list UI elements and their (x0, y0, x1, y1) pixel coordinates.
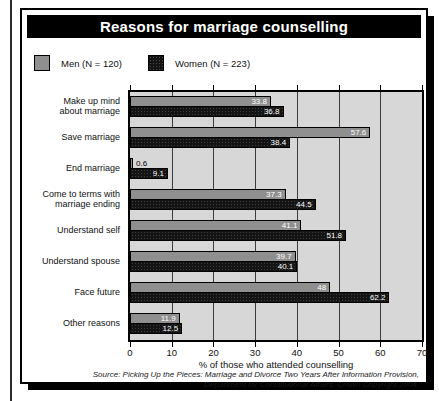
bar-women-3: 44.5 (130, 199, 316, 210)
page-left-rule (10, 0, 12, 401)
top-tick-20 (213, 85, 214, 90)
bar-women-2: 9.1 (130, 168, 168, 179)
value-label-women-2: 9.1 (153, 169, 164, 178)
x-tick-label-20: 20 (208, 347, 219, 358)
top-tick-60 (380, 85, 381, 90)
men-swatch-icon (34, 55, 50, 71)
category-label-1: Save marriage (24, 131, 120, 142)
x-tick-label-30: 30 (250, 347, 261, 358)
women-swatch-icon (148, 55, 164, 71)
x-tick-label-10: 10 (166, 347, 177, 358)
value-label-women-7: 12.5 (163, 324, 179, 333)
value-label-men-1: 57.6 (351, 128, 367, 137)
x-tick-label-0: 0 (127, 347, 132, 358)
category-label-4: Understand self (24, 224, 120, 235)
value-label-men-5: 39.7 (276, 252, 292, 261)
plot-area: 33.836.857.638.40.69.137.344.541.151.839… (128, 90, 424, 342)
value-label-women-1: 38.4 (271, 138, 287, 147)
value-label-women-0: 36.8 (264, 107, 280, 116)
value-label-women-3: 44.5 (296, 200, 312, 209)
bar-women-4: 51.8 (130, 230, 346, 241)
x-axis-title: % of those who attended counselling (128, 359, 424, 370)
value-label-men-7: 11.9 (161, 314, 176, 323)
chart-title: Reasons for marriage counselling (27, 15, 421, 38)
top-tick-10 (172, 85, 173, 90)
bar-women-0: 36.8 (130, 106, 284, 117)
legend-item-men: Men (N = 120) (34, 55, 122, 71)
legend: Men (N = 120) Women (N = 223) (34, 54, 250, 72)
top-tick-30 (255, 85, 256, 90)
value-label-men-0: 33.8 (251, 97, 267, 106)
top-tick-50 (339, 85, 340, 90)
category-label-7: Other reasons (24, 317, 120, 328)
value-label-men-3: 37.3 (266, 190, 282, 199)
top-tick-70 (422, 85, 423, 90)
x-tick-label-40: 40 (292, 347, 303, 358)
value-label-women-4: 51.8 (327, 231, 343, 240)
bar-women-6: 62.2 (130, 292, 389, 303)
category-labels: Make up mind about marriageSave marriage… (24, 90, 124, 342)
x-tick-label-70: 70 (417, 347, 428, 358)
top-tick-0 (130, 85, 131, 90)
category-label-2: End marriage (24, 162, 120, 173)
category-label-5: Understand spouse (24, 255, 120, 266)
value-label-women-6: 62.2 (370, 293, 386, 302)
bar-women-5: 40.1 (130, 261, 297, 272)
source-note: Source: Picking Up the Pieces: Marriage … (52, 370, 419, 389)
top-tick-40 (297, 85, 298, 90)
x-tick-label-60: 60 (375, 347, 386, 358)
legend-item-women: Women (N = 223) (148, 55, 250, 71)
bar-women-7: 12.5 (130, 323, 182, 334)
value-label-men-4: 41.1 (282, 221, 298, 230)
legend-label-men: Men (N = 120) (61, 58, 122, 69)
category-label-6: Face future (24, 286, 120, 297)
bar-women-1: 38.4 (130, 137, 290, 148)
value-label-women-5: 40.1 (278, 262, 294, 271)
page: Reasons for marriage counselling Men (N … (0, 0, 439, 401)
chart-card: Reasons for marriage counselling Men (N … (20, 8, 428, 384)
legend-label-women: Women (N = 223) (175, 58, 250, 69)
category-label-3: Come to terms with marriage ending (24, 188, 120, 209)
x-tick-label-50: 50 (333, 347, 344, 358)
value-label-men-6: 48 (317, 283, 326, 292)
category-label-0: Make up mind about marriage (24, 95, 120, 116)
